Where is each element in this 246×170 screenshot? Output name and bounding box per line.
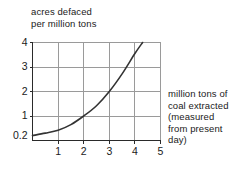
y-tick-label: 4 [6, 37, 28, 48]
data-curve [33, 43, 143, 136]
x-tick-label: 3 [102, 146, 116, 157]
axis-ticks [30, 43, 161, 144]
y-tick-label: 1 [6, 110, 28, 121]
plot-area [0, 0, 246, 170]
x-tick-label: 1 [51, 146, 65, 157]
x-tick-label: 4 [128, 146, 142, 157]
x-tick-label: 5 [154, 146, 168, 157]
y-tick-label: 2 [6, 86, 28, 97]
chart-figure: acres defacedper million tons million to… [0, 0, 246, 170]
x-tick-label: 2 [77, 146, 91, 157]
y-tick-label: 3 [6, 61, 28, 72]
curve-path [33, 43, 143, 136]
gridlines [33, 43, 161, 141]
y-tick-label: 0.2 [2, 130, 28, 141]
